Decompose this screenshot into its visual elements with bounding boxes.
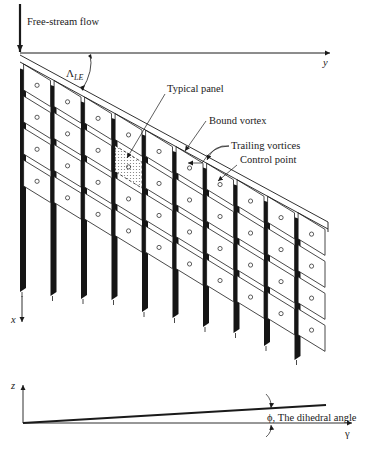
trailing-vortex-strip xyxy=(112,118,118,300)
front-view xyxy=(23,385,352,437)
bound-vortex-leader xyxy=(185,121,206,151)
trailing-vortices-label: Trailing vortices xyxy=(231,140,300,151)
bound-vortex-label: Bound vortex xyxy=(209,115,267,126)
dihedral-label: ϕ, The dihedral angle xyxy=(267,412,357,423)
dihedral-arrow-bottom xyxy=(266,425,271,437)
control-point-label: Control point xyxy=(240,154,296,165)
front-y-axis-label: γ xyxy=(344,428,350,439)
x-axis-label: x xyxy=(10,314,16,325)
sweep-angle-label: ΛLE xyxy=(66,67,83,82)
trailing-vortex-strip xyxy=(142,135,148,312)
z-axis-label: z xyxy=(10,380,15,391)
typical-panel-label: Typical panel xyxy=(167,83,224,94)
dihedral-arrow-top xyxy=(266,394,271,408)
vortex-lattice-diagram: Free-stream flow y ΛLE Typical panel Bou… xyxy=(0,0,379,449)
y-axis-label: y xyxy=(322,57,328,68)
free-stream-label: Free-stream flow xyxy=(27,16,99,27)
